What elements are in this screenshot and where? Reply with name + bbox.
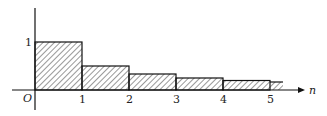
x-tick-3: 3 <box>173 93 180 106</box>
bar-4 <box>176 78 223 90</box>
bar-1 <box>35 42 82 90</box>
origin-label: O <box>23 92 32 105</box>
x-tick-2: 2 <box>126 93 133 106</box>
step-function-diagram: O 1 1 2 3 4 5 n <box>0 0 327 116</box>
y-tick-1: 1 <box>25 36 32 49</box>
x-tick-4: 4 <box>220 93 227 106</box>
x-tick-5: 5 <box>267 93 274 106</box>
bar-6-partial <box>270 82 283 90</box>
bar-5 <box>223 81 270 91</box>
x-tick-1: 1 <box>79 93 86 106</box>
x-axis-arrow-icon <box>298 87 305 93</box>
bars <box>35 42 283 90</box>
bar-3 <box>129 74 176 90</box>
x-axis-label: n <box>309 84 316 97</box>
bar-2 <box>82 66 129 90</box>
